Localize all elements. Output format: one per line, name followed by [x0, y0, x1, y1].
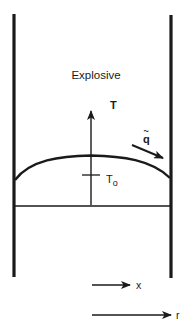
temperature-profile-curve	[15, 156, 170, 181]
explosive-heating-diagram: Explosive T To q ~ x r	[0, 0, 183, 330]
heat-flux-arrow	[132, 145, 163, 158]
explosive-label: Explosive	[71, 69, 120, 81]
x-coordinate-label: x	[136, 279, 142, 291]
r-coordinate-label: r	[176, 309, 180, 321]
temperature-axis-label: T	[110, 99, 117, 111]
heat-flux-accent: ~	[144, 126, 149, 136]
reference-temperature-subscript: o	[113, 178, 118, 188]
reference-temperature-label: To	[106, 173, 118, 188]
